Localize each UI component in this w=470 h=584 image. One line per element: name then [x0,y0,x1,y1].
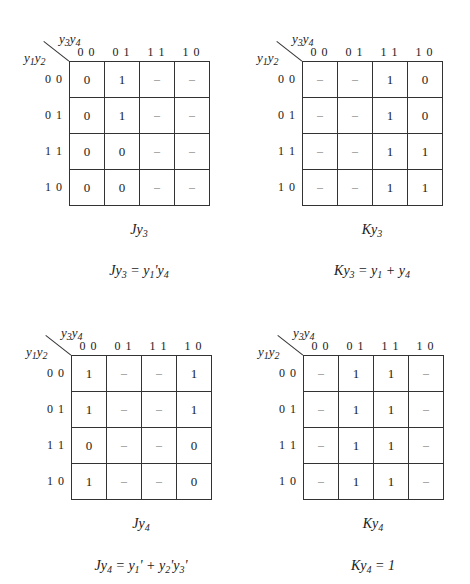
kmap-equation: Jy4 = y1' + y2'y3' [41,558,241,575]
dont-care-cell: – [175,98,210,134]
column-header: 0 0 [69,45,104,60]
dont-care-cell: – [140,170,175,206]
kmap-cell: 1 [373,62,408,98]
row-header: 1 1 [35,438,65,453]
kmap-cell: 0 [408,98,443,134]
dont-care-cell: – [175,62,210,98]
column-header: 1 0 [174,45,209,60]
kmap-cell: 0 [70,98,105,134]
column-header: 1 0 [407,45,442,60]
row-header: 1 1 [267,438,297,453]
kmap-grid: 1––11––10––01––0 [71,355,212,500]
dont-care-cell: – [338,134,373,170]
dont-care-cell: – [304,428,339,464]
kmap-cell: 1 [177,392,212,428]
row-header: 1 0 [35,474,65,489]
dont-care-cell: – [304,392,339,428]
dont-care-cell: – [303,98,338,134]
kmap-cell: 0 [70,134,105,170]
column-header: 0 1 [104,45,139,60]
kmap-equation: Ky4 = 1 [273,558,470,575]
kmap-cell: 1 [339,428,374,464]
dont-care-cell: – [409,356,444,392]
row-header: 1 1 [266,144,296,159]
dont-care-cell: – [304,356,339,392]
kmap-cell: 1 [408,170,443,206]
kmap-cell: 1 [408,134,443,170]
dont-care-cell: – [303,170,338,206]
kmap-caption: Jy3 [69,222,209,239]
kmap-cell: 0 [177,428,212,464]
dont-care-cell: – [409,392,444,428]
dont-care-cell: – [140,62,175,98]
dont-care-cell: – [303,62,338,98]
dont-care-cell: – [107,464,142,500]
column-header: 1 1 [373,339,408,354]
dont-care-cell: – [107,428,142,464]
kmap-equation: Ky3 = y1 + y4 [272,263,470,280]
kmap-cell: 0 [408,62,443,98]
kmap-cell: 0 [72,428,107,464]
column-header: 1 0 [408,339,443,354]
kmap-cell: 1 [373,170,408,206]
dont-care-cell: – [142,356,177,392]
dont-care-cell: – [303,134,338,170]
row-header: 0 1 [35,402,65,417]
row-header: 0 0 [266,72,296,87]
row-header: 0 1 [266,108,296,123]
kmap-cell: 1 [374,356,409,392]
kmap-cell: 1 [373,134,408,170]
kmap-caption: Ky4 [303,516,443,533]
column-header: 0 0 [302,45,337,60]
row-variable-label: y1y2 [24,50,46,67]
row-header: 1 0 [267,474,297,489]
column-header: 1 1 [141,339,176,354]
row-variable-label: y1y2 [26,344,48,361]
kmap-cell: 1 [339,392,374,428]
column-header: 0 1 [338,339,373,354]
kmap-cell: 1 [105,98,140,134]
row-header: 0 1 [267,402,297,417]
kmap-grid: 01––01––00––00–– [69,61,210,206]
kmap-cell: 1 [374,428,409,464]
kmap-cell: 1 [72,392,107,428]
dont-care-cell: – [142,428,177,464]
kmap-grid: –11––11––11––11– [303,355,444,500]
dont-care-cell: – [338,62,373,98]
row-header: 1 0 [266,180,296,195]
column-header: 0 1 [337,45,372,60]
kmap-caption: Ky3 [302,222,442,239]
kmap-cell: 1 [374,464,409,500]
column-header: 0 1 [106,339,141,354]
kmap-cell: 1 [373,98,408,134]
column-header: 1 1 [139,45,174,60]
dont-care-cell: – [107,392,142,428]
kmap-cell: 1 [105,62,140,98]
dont-care-cell: – [304,464,339,500]
kmap-equation: Jy3 = y1'y4 [39,263,239,280]
kmap-grid: ––10––10––11––11 [302,61,443,206]
kmap-cell: 1 [339,464,374,500]
row-header: 0 0 [267,366,297,381]
dont-care-cell: – [175,134,210,170]
dont-care-cell: – [409,464,444,500]
kmap-cell: 0 [70,62,105,98]
row-header: 0 0 [33,72,63,87]
row-variable-label: y1y2 [257,50,279,67]
column-header: 1 1 [372,45,407,60]
row-header: 1 0 [33,180,63,195]
kmap-cell: 1 [177,356,212,392]
row-header: 0 1 [33,108,63,123]
kmap-cell: 1 [374,392,409,428]
kmap-cell: 1 [72,464,107,500]
kmap-cell: 1 [339,356,374,392]
dont-care-cell: – [140,134,175,170]
row-header: 1 1 [33,144,63,159]
kmap-cell: 0 [70,170,105,206]
dont-care-cell: – [107,356,142,392]
dont-care-cell: – [409,428,444,464]
column-header: 0 0 [71,339,106,354]
dont-care-cell: – [175,170,210,206]
kmap-cell: 1 [72,356,107,392]
row-header: 0 0 [35,366,65,381]
